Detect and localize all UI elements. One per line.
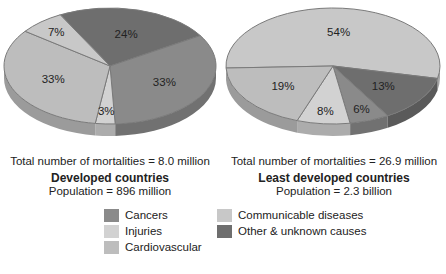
legend-label-cardiovascular: Cardiovascular	[125, 241, 202, 253]
legend-item-other: Other & unknown causes	[217, 223, 367, 239]
legend-swatch-other	[217, 225, 232, 238]
data-label-injuries: 3%	[98, 105, 115, 117]
legend-label-other: Other & unknown causes	[238, 225, 367, 237]
population-least-developed: Population = 2.3 billion	[222, 185, 446, 198]
title-least-developed: Least developed countries	[222, 172, 446, 185]
data-label-communicable-diseases: 7%	[48, 26, 65, 38]
pie-side-injuries	[95, 123, 115, 136]
data-label-other-and-unknown-causes: 13%	[372, 80, 395, 92]
total-mortalities-least-developed: Total number of mortalities = 26.9 milli…	[222, 155, 446, 168]
legend-swatch-cardiovascular	[104, 241, 119, 254]
legend-swatch-cancers	[104, 209, 119, 222]
legend-item-communicable: Communicable diseases	[217, 207, 367, 223]
data-label-cardiovascular: 33%	[42, 73, 65, 85]
data-label-cancers: 33%	[153, 76, 176, 88]
legend-label-injuries: Injuries	[125, 225, 162, 237]
caption-least-developed: Total number of mortalities = 26.9 milli…	[222, 155, 446, 198]
legend-label-cancers: Cancers	[125, 209, 168, 221]
pie-least-developed-countries: 54%13%6%8%19%	[226, 8, 440, 136]
pie-charts: 24%33%3%33%7% 54%13%6%8%19%	[0, 0, 446, 150]
data-label-cardiovascular: 19%	[271, 80, 294, 92]
data-label-cancers: 6%	[353, 103, 370, 115]
pie-developed-countries: 24%33%3%33%7%	[4, 8, 216, 136]
data-label-injuries: 8%	[317, 105, 334, 117]
legend-item-cancers: Cancers	[104, 207, 202, 223]
data-label-communicable-diseases: 54%	[327, 26, 350, 38]
data-label-other-and-unknown-causes: 24%	[115, 28, 138, 40]
legend-item-cardiovascular: Cardiovascular	[104, 239, 202, 255]
population-developed: Population = 896 million	[0, 185, 220, 198]
legend-item-injuries: Injuries	[104, 223, 202, 239]
legend-label-communicable: Communicable diseases	[238, 209, 363, 221]
legend-swatch-communicable	[217, 209, 232, 222]
title-developed: Developed countries	[0, 172, 220, 185]
caption-developed: Total number of mortalities = 8.0 millio…	[0, 155, 220, 198]
total-mortalities-developed: Total number of mortalities = 8.0 millio…	[0, 155, 220, 168]
legend-swatch-injuries	[104, 225, 119, 238]
